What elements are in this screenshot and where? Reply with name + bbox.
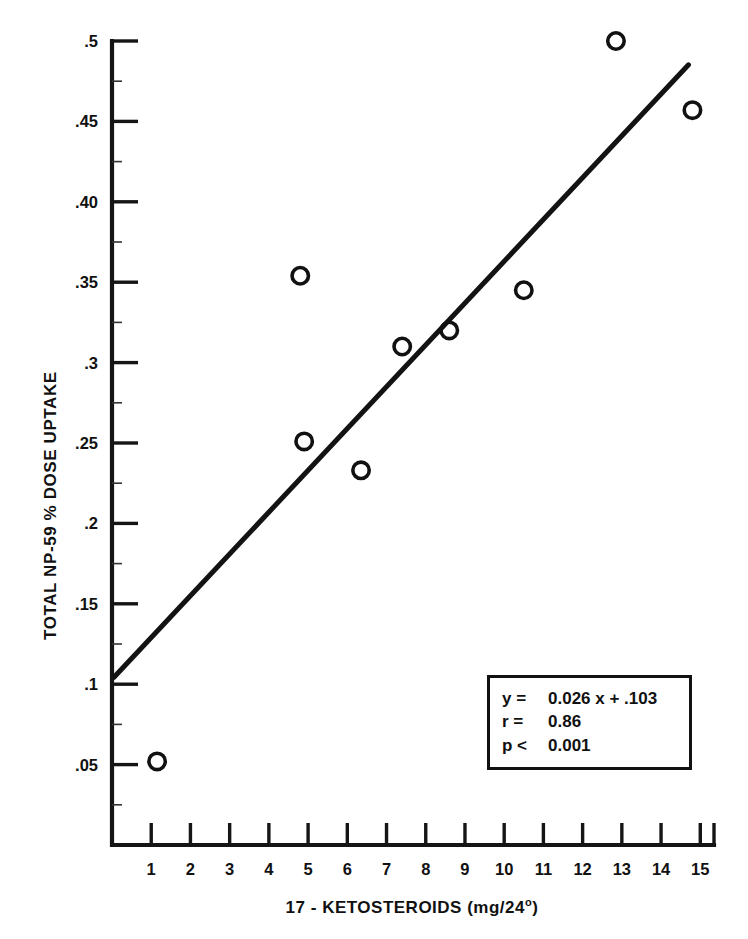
data-point-marker [516, 282, 532, 298]
stats-value: 0.026 x + .103 [548, 687, 677, 710]
x-axis-tick-label: 8 [421, 860, 430, 878]
data-point-marker [292, 268, 308, 284]
stats-row: p < 0.001 [502, 734, 677, 757]
data-point-marker [296, 433, 312, 449]
x-axis-label-suffix: ) [532, 898, 538, 917]
x-axis-tick-label: 2 [186, 860, 195, 878]
data-point-marker [441, 322, 457, 338]
data-point-marker [149, 753, 165, 769]
stats-key: r = [502, 710, 548, 733]
data-point-marker [394, 338, 410, 354]
y-axis-tick-label: .35 [75, 273, 98, 291]
x-axis-tick-label: 6 [343, 860, 352, 878]
plot-canvas: .05.1.15.2.25.3.35.40.45.512345678910111… [0, 0, 748, 939]
y-axis-label: TOTAL NP-59 % DOSE UPTAKE [34, 170, 68, 640]
y-axis-tick-label: .25 [75, 434, 98, 452]
data-point-marker [608, 33, 624, 49]
stats-key: y = [502, 687, 548, 710]
x-axis-label-prefix: 17 - KETOSTEROIDS (mg/24 [286, 898, 525, 917]
y-axis-tick-label: .5 [84, 32, 98, 50]
x-axis-tick-label: 15 [691, 860, 709, 878]
x-axis-tick-label: 13 [613, 860, 631, 878]
regression-fit-line [114, 65, 689, 677]
x-axis-tick-label: 5 [303, 860, 312, 878]
x-axis-tick-label: 10 [495, 860, 513, 878]
stats-value: 0.001 [548, 734, 677, 757]
x-axis-tick-label: 14 [652, 860, 671, 878]
y-axis-tick-label: .05 [75, 756, 98, 774]
x-axis-label: 17 - KETOSTEROIDS (mg/24o) [112, 896, 712, 918]
stats-row: r = 0.86 [502, 710, 677, 733]
y-axis-tick-label: .3 [84, 354, 98, 372]
y-axis-tick-label: .45 [75, 112, 98, 130]
y-axis-tick-label: .2 [84, 514, 98, 532]
x-axis-tick-label: 3 [225, 860, 234, 878]
y-axis-tick-label: .15 [75, 595, 98, 613]
x-axis-tick-label: 9 [460, 860, 469, 878]
stats-row: y = 0.026 x + .103 [502, 687, 677, 710]
data-point-marker [684, 102, 700, 118]
x-axis-tick-label: 11 [535, 860, 552, 878]
stats-value: 0.86 [548, 710, 677, 733]
stats-key: p < [502, 734, 548, 757]
regression-stats-box: y = 0.026 x + .103 r = 0.86 p < 0.001 [487, 675, 692, 770]
x-axis-tick-label: 4 [264, 860, 274, 878]
x-axis-tick-label: 1 [147, 860, 156, 878]
y-axis-tick-label: .40 [75, 193, 98, 211]
x-axis-tick-label: 12 [573, 860, 591, 878]
x-axis-tick-label: 7 [382, 860, 391, 878]
y-axis-tick-label: .1 [84, 675, 98, 693]
scatter-plot-figure: .05.1.15.2.25.3.35.40.45.512345678910111… [0, 0, 748, 939]
data-point-marker [353, 462, 369, 478]
